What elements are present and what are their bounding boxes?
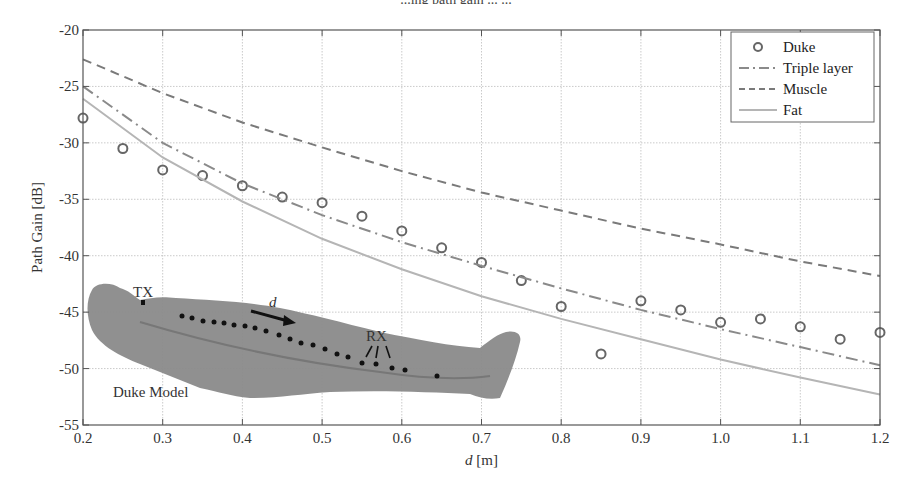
legend-label: Fat [783,102,803,118]
duke-data-point [756,314,765,323]
legend: DukeTriple layerMuscleFat [731,32,874,122]
tx-label: TX [133,284,153,300]
rx-dot [232,323,237,328]
x-tick-label: 0.8 [552,430,571,446]
duke-body-silhouette [88,284,521,399]
rx-label: RX [366,328,387,344]
rx-dot [253,326,258,331]
y-tick-label: -45 [59,304,79,320]
legend-label: Triple layer [783,60,853,76]
duke-data-point [118,144,127,153]
path-gain-chart: TXdRXDuke Model 0.20.30.40.50.60.70.80.9… [0,0,912,495]
x-tick-label: 1.2 [871,430,890,446]
x-axis-label: d [m] [465,452,498,468]
x-tick-label: 0.7 [472,430,491,446]
duke-model-inset: TXdRXDuke Model [88,284,521,400]
y-axis-label: Path Gain [dB] [29,182,45,273]
duke-data-point [437,243,446,252]
y-tick-label: -55 [59,417,79,433]
rx-dot [243,324,248,329]
y-tick-label: -30 [59,135,79,151]
duke-model-label: Duke Model [113,384,188,400]
rx-dot [346,355,351,360]
rx-dot [374,362,379,367]
rx-dot [264,329,269,334]
y-tick-label: -25 [59,78,79,94]
duke-data-point [676,305,685,314]
rx-dot [190,316,195,321]
rx-dot [222,321,227,326]
rx-dot [288,337,293,342]
legend-label: Muscle [783,81,828,97]
tx-marker [141,300,145,305]
rx-dot [403,368,408,373]
rx-dot [180,314,185,319]
rx-dot [277,333,282,338]
rx-dot [335,352,340,357]
rx-dot [201,319,206,324]
x-tick-label: 0.6 [392,430,411,446]
rx-dot [360,361,365,366]
x-tick-label: 0.9 [632,430,651,446]
rx-dot [390,366,395,371]
x-tick-label: 0.4 [233,430,252,446]
duke-data-point [836,335,845,344]
y-tick-label: -20 [59,22,79,38]
legend-label: Duke [783,39,816,55]
duke-data-point [597,349,606,358]
y-tick-label: -50 [59,361,79,377]
rx-dot [299,341,304,346]
x-tick-label: 1.1 [791,430,810,446]
duke-data-point [796,322,805,331]
rx-dot [212,320,217,325]
rx-dot [435,374,440,379]
x-tick-label: 0.5 [313,430,332,446]
x-tick-label: 1.0 [711,430,730,446]
duke-data-point [357,212,366,221]
rx-dot [323,347,328,352]
duke-data-point [158,165,167,174]
d-label: d [269,294,277,310]
y-tick-label: -35 [59,191,79,207]
duke-data-point [318,198,327,207]
rx-dot [311,343,316,348]
y-tick-label: -40 [59,248,79,264]
x-tick-label: 0.3 [153,430,172,446]
